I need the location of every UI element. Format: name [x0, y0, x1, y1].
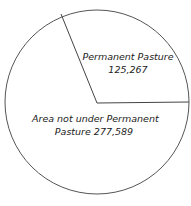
slice-label-name: Area not under Permanent — [32, 112, 156, 125]
pie-chart: Permanent Pasture 125,267 Area not under… — [0, 0, 191, 206]
slice-label-name: Permanent Pasture — [82, 50, 174, 63]
slice-label-value: 125,267 — [82, 63, 174, 76]
slice-label-value: Pasture 277,589 — [32, 125, 156, 138]
slice-label-permanent-pasture: Permanent Pasture 125,267 — [82, 50, 174, 76]
pie-chart-graphic — [0, 0, 191, 206]
slice-label-non-pasture: Area not under Permanent Pasture 277,589 — [32, 112, 156, 138]
